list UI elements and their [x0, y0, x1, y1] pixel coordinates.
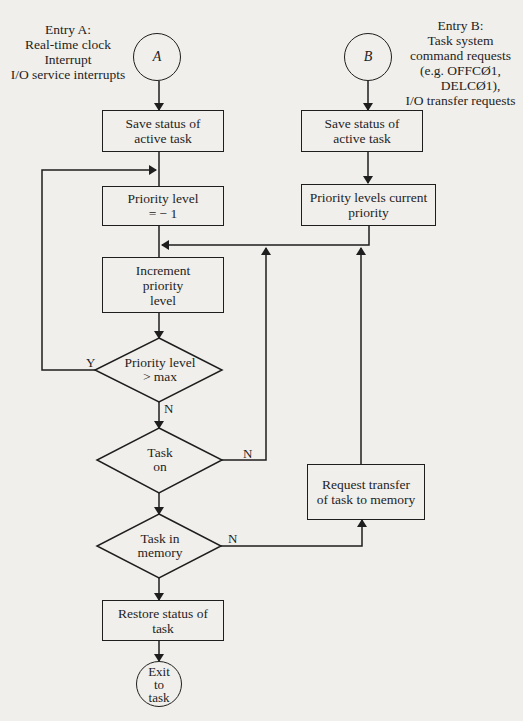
entry-a-line: Interrupt [8, 52, 128, 67]
exit-to-task-connector: Exit to task [136, 661, 182, 707]
request-transfer-box: Request transfer of task to memory [307, 464, 425, 520]
node-text: Increment priority level [128, 263, 198, 308]
restore-status-box: Restore status of task [102, 600, 224, 641]
no-label: N [228, 531, 237, 547]
node-text: Priority level > max [120, 356, 200, 384]
entry-b-line: DELCØ1), [398, 78, 523, 93]
save-status-a-box: Save status of active task [102, 110, 224, 152]
connector-letter: A [153, 49, 162, 65]
entry-a-connector: A [133, 33, 181, 81]
entry-b-line: command requests [398, 48, 523, 63]
node-text: Task in memory [130, 532, 190, 560]
yes-label: Y [86, 355, 95, 371]
priority-reset-box: Priority level = − 1 [102, 186, 224, 226]
no-label: N [164, 401, 173, 417]
node-text: Priority level = − 1 [123, 191, 203, 221]
save-status-b-box: Save status of active task [301, 110, 423, 152]
entry-b-line: (e.g. OFFCØ1, [398, 63, 523, 78]
priority-max-decision: Priority level > max [110, 356, 210, 384]
entry-b-label: Entry B: Task system command requests (e… [398, 18, 523, 108]
node-text: Save status of active task [312, 116, 412, 146]
node-text: Priority levels current priority [306, 190, 431, 220]
entry-a-line: Real-time clock [8, 37, 128, 52]
entry-b-connector: B [344, 33, 392, 81]
entry-b-line: I/O transfer requests [398, 93, 523, 108]
increment-priority-box: Increment priority level [102, 257, 224, 313]
priority-current-box: Priority levels current priority [301, 184, 436, 226]
node-text: Task on [142, 446, 178, 474]
node-text: Restore status of task [113, 606, 213, 636]
entry-a-label: Entry A: Real-time clock Interrupt I/O s… [8, 22, 128, 82]
node-text: Request transfer of task to memory [316, 477, 416, 507]
node-text: Exit to task [144, 665, 174, 704]
entry-b-line: Task system [398, 33, 523, 48]
task-in-memory-decision: Task in memory [110, 532, 210, 560]
entry-b-title: Entry B: [398, 18, 523, 33]
no-label: N [243, 446, 252, 462]
flowchart-connectors [0, 0, 523, 721]
task-on-decision: Task on [120, 446, 200, 474]
entry-a-line: I/O service interrupts [8, 67, 128, 82]
node-text: Save status of active task [113, 116, 213, 146]
entry-a-title: Entry A: [8, 22, 128, 37]
connector-letter: B [364, 49, 373, 65]
